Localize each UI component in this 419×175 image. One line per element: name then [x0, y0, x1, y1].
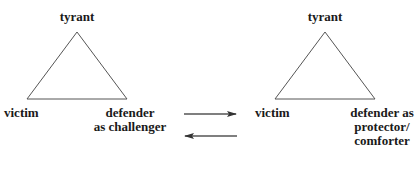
right-tyrant-label: tyrant [300, 10, 350, 24]
left-tyrant-label: tyrant [52, 10, 102, 24]
right-triangle [275, 32, 375, 99]
right-victim-label: victim [255, 106, 301, 120]
diagram-graphics [0, 0, 419, 175]
left-defender-label: defender as challenger [90, 106, 170, 134]
right-defender-label: defender as protector/ comforter [345, 106, 419, 148]
left-triangle [27, 32, 127, 99]
triangle-diagram: tyrant victim defender as challenger tyr… [0, 0, 419, 175]
left-victim-label: victim [4, 106, 50, 120]
